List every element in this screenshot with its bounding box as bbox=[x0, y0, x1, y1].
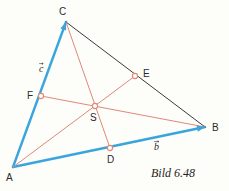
vector-arrow-c bbox=[39, 62, 43, 65]
vector-label-c: c bbox=[39, 62, 43, 74]
point-marker-D bbox=[107, 145, 112, 150]
triangle-diagram-canvas bbox=[0, 0, 229, 191]
arrowhead-C bbox=[60, 22, 66, 31]
vector-label-b: b bbox=[154, 140, 159, 152]
point-label-F: F bbox=[27, 91, 33, 101]
point-marker-S bbox=[92, 103, 97, 108]
vertex-label-B: B bbox=[212, 123, 219, 133]
point-marker-E bbox=[132, 73, 137, 78]
median-F-B bbox=[41, 96, 205, 127]
centroid-label-S: S bbox=[90, 113, 97, 123]
vertex-label-A: A bbox=[6, 173, 13, 183]
median-C-D bbox=[66, 22, 110, 148]
vector-arrow-b bbox=[154, 140, 159, 143]
geometry-figure: A B C D E F S c b Bild 6.48 bbox=[0, 0, 229, 191]
point-label-D: D bbox=[107, 155, 114, 165]
point-label-E: E bbox=[143, 69, 150, 79]
point-marker-F bbox=[38, 93, 43, 98]
figure-caption: Bild 6.48 bbox=[151, 166, 195, 181]
vertex-label-C: C bbox=[59, 7, 66, 17]
